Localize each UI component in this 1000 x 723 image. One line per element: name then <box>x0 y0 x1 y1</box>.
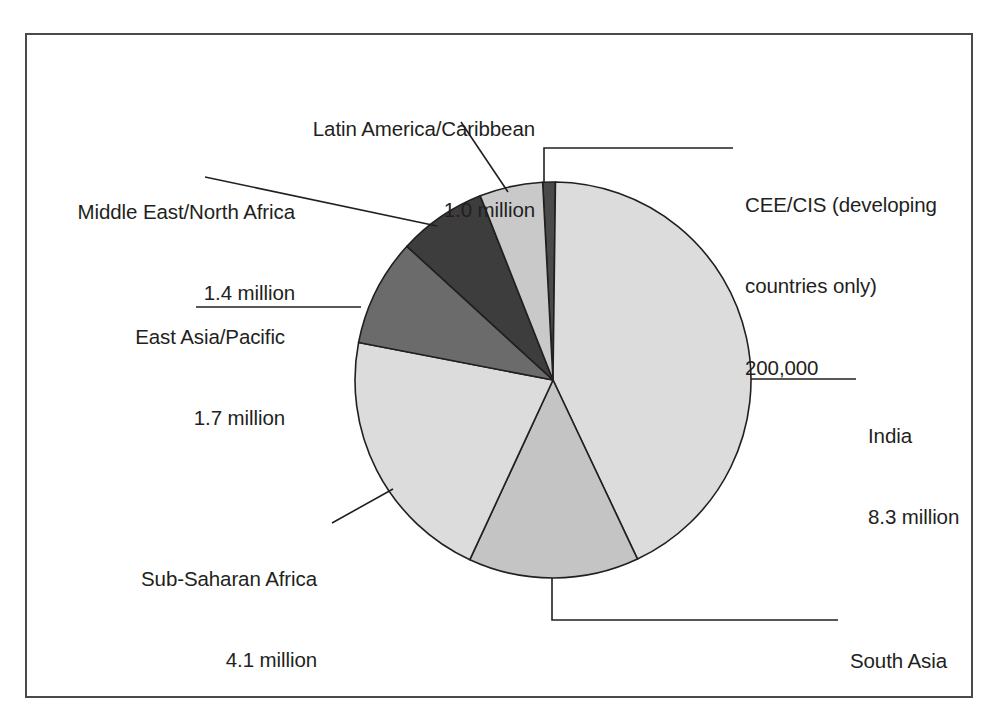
label-cee-cis-line1: CEE/CIS (developing <box>745 191 975 218</box>
label-india-line2: 8.3 million <box>868 503 988 530</box>
label-sub-saharan-africa-line2: 4.1 million <box>45 646 317 673</box>
label-cee-cis-line2: countries only) <box>745 272 975 299</box>
label-india-line1: India <box>868 422 988 449</box>
label-south-asia-line1: South Asia <box>850 647 1000 674</box>
label-middle-east-north-africa-line1: Middle East/North Africa <box>45 198 295 225</box>
leader-line-sub-saharan-africa <box>332 489 393 523</box>
leader-line-south-asia <box>552 578 838 620</box>
label-east-asia-pacific-line2: 1.7 million <box>45 404 285 431</box>
leader-line-cee-cis <box>544 148 733 183</box>
label-east-asia-pacific-line1: East Asia/Pacific <box>45 323 285 350</box>
label-latin-america-caribbean-line2: 1.0 million <box>255 196 535 223</box>
label-latin-america-caribbean-line1: Latin America/Caribbean <box>255 115 535 142</box>
label-sub-saharan-africa: Sub-Saharan Africa 4.1 million <box>45 510 317 723</box>
label-south-asia: South Asia (excluding India 2.7 million) <box>850 592 1000 723</box>
label-sub-saharan-africa-line1: Sub-Saharan Africa <box>45 565 317 592</box>
chart-page: Latin America/Caribbean 1.0 million Midd… <box>0 0 1000 723</box>
label-latin-america-caribbean: Latin America/Caribbean 1.0 million <box>255 60 535 278</box>
label-east-asia-pacific: East Asia/Pacific 1.7 million <box>45 268 285 486</box>
label-india: India 8.3 million <box>868 367 988 585</box>
